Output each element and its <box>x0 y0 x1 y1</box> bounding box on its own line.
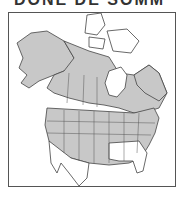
north-america-map <box>9 13 175 186</box>
map-title: DONE DE SOMM <box>0 0 179 9</box>
range-map <box>8 12 176 187</box>
